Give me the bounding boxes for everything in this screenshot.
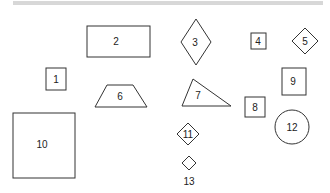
shape-label-2: 2	[113, 36, 119, 47]
shape-label-1: 1	[53, 74, 59, 85]
shape-label-11: 11	[183, 129, 194, 140]
labels-layer: 12345678910111213	[36, 36, 308, 187]
shape-label-8: 8	[252, 102, 258, 113]
shape-diamond-13	[182, 156, 196, 170]
shape-label-7: 7	[195, 90, 201, 101]
shape-label-13: 13	[183, 176, 195, 187]
shape-label-9: 9	[290, 76, 296, 87]
shapes-layer	[13, 19, 318, 178]
shape-label-10: 10	[36, 139, 48, 150]
shape-triangle-7	[182, 79, 231, 106]
shape-label-4: 4	[255, 36, 261, 47]
shape-label-5: 5	[302, 36, 308, 47]
shape-label-3: 3	[192, 37, 198, 48]
shape-label-12: 12	[286, 122, 298, 133]
shapes-diagram: 12345678910111213	[0, 0, 330, 193]
shape-label-6: 6	[117, 91, 123, 102]
